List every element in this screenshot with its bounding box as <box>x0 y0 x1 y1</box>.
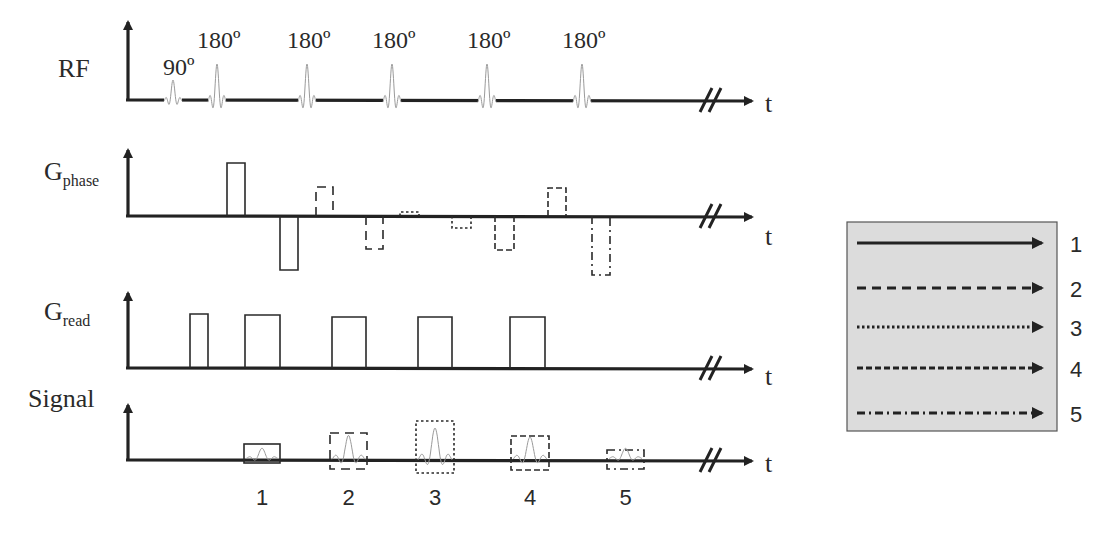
readout-lobe <box>190 314 208 368</box>
gphase-row <box>126 150 752 275</box>
rf-pulse-angle-label: 180º <box>287 27 331 53</box>
time-labels: t t t t <box>765 89 773 478</box>
echo-box <box>511 436 549 470</box>
rf-pulse-angle-label: 90º <box>163 54 195 80</box>
gread-row <box>126 293 752 380</box>
rf-pulse-angle-label: 180º <box>197 27 241 53</box>
phase-encode-lobe <box>227 163 245 216</box>
echo-number-label: 4 <box>524 485 536 510</box>
gread-label: Gread <box>44 297 90 329</box>
phase-encode-lobe <box>548 188 566 216</box>
phase-encode-lobe <box>316 187 333 216</box>
rf-pulse-angle-label: 180º <box>562 27 606 53</box>
echo-number-label: 3 <box>429 485 441 510</box>
rf-label: RF <box>58 54 90 83</box>
legend-label: 5 <box>1070 402 1082 427</box>
echo-number-label: 1 <box>256 485 268 510</box>
phase-encode-lobe <box>495 216 514 250</box>
gphase-label: Gphase <box>44 157 99 190</box>
echo-signal <box>246 448 278 460</box>
echo-signal <box>513 437 547 463</box>
signal-row: 12345 <box>126 405 752 510</box>
time-label-signal: t <box>765 449 773 478</box>
legend-label: 3 <box>1070 316 1082 341</box>
readout-lobe <box>418 317 452 368</box>
echo-box <box>416 421 454 473</box>
echo-number-label: 5 <box>620 485 632 510</box>
time-label-gread: t <box>765 362 773 391</box>
readout-lobe <box>245 315 280 368</box>
legend-label: 2 <box>1070 277 1082 302</box>
time-label-rf: t <box>765 89 773 118</box>
pulse-sequence-diagram: RF Gphase Gread Signal 90º180º180º180º18… <box>0 0 1116 536</box>
rf-pulse-angle-label: 180º <box>372 27 416 53</box>
rf-pulse-angle-label: 180º <box>467 27 511 53</box>
phase-encode-lobe <box>280 216 298 270</box>
legend-label: 1 <box>1070 232 1082 257</box>
echo-signal <box>332 436 365 463</box>
gread-time-axis <box>126 368 752 369</box>
echo-box <box>330 433 367 469</box>
rf-row: 90º180º180º180º180º180º <box>126 22 752 112</box>
time-label-gphase: t <box>765 222 773 251</box>
row-labels: RF Gphase Gread Signal <box>28 54 99 413</box>
phase-encode-lobe <box>592 216 610 275</box>
phase-encode-lobe <box>366 216 383 249</box>
echo-number-label: 2 <box>343 485 355 510</box>
signal-label: Signal <box>28 384 94 413</box>
readout-lobe <box>332 317 366 368</box>
signal-time-axis <box>126 460 752 461</box>
legend: 12345 <box>847 222 1082 431</box>
gphase-time-axis <box>126 216 752 217</box>
readout-lobe <box>510 317 545 368</box>
legend-label: 4 <box>1070 357 1082 382</box>
